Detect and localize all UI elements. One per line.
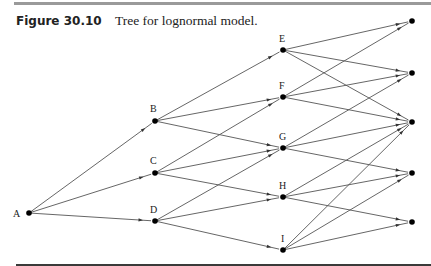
node-T1 (409, 18, 415, 24)
node-label-I: I (281, 233, 284, 244)
edge-A-C (29, 174, 151, 213)
node-H (280, 194, 286, 200)
edge-H-T4 (283, 174, 408, 197)
node-G (280, 145, 286, 151)
edge-E-T2 (283, 50, 408, 72)
node-label-H: H (279, 180, 286, 191)
node-label-G: G (279, 131, 286, 142)
arrowhead-icon (268, 103, 273, 107)
arrowhead-icon (268, 154, 273, 158)
edge-I-T5 (283, 223, 408, 250)
arrowhead-icon (397, 128, 402, 132)
node-E (280, 47, 286, 53)
tree-edges (29, 22, 409, 250)
edge-I-T3 (283, 125, 409, 250)
arrowhead-icon (397, 27, 402, 31)
edge-D-H (155, 198, 279, 221)
tree-nodes: ABCDEFGHI (13, 18, 415, 253)
node-F (280, 94, 286, 100)
arrowhead-icon (397, 113, 402, 117)
node-label-F: F (279, 80, 285, 91)
edge-D-I (155, 221, 279, 249)
arrowhead-icon (397, 79, 402, 83)
figure-page: Figure 30.10 Tree for lognormal model. A… (0, 0, 431, 266)
edge-E-T1 (283, 22, 408, 50)
node-T4 (409, 170, 415, 176)
edge-G-T4 (283, 148, 408, 172)
arrowhead-icon (139, 176, 144, 179)
edge-F-T2 (283, 74, 408, 97)
node-label-E: E (279, 33, 285, 44)
edge-A-B (29, 123, 152, 213)
node-C (152, 170, 158, 176)
edge-B-G (155, 121, 279, 147)
edge-A-D (29, 213, 151, 221)
arrowhead-icon (138, 218, 143, 221)
tree-diagram: ABCDEFGHI (0, 0, 431, 266)
node-T3 (409, 119, 415, 125)
node-label-D: D (150, 204, 157, 215)
edge-H-T5 (283, 197, 408, 221)
edge-B-F (155, 98, 279, 121)
arrowhead-icon (397, 179, 402, 183)
arrowhead-icon (268, 56, 273, 60)
node-label-B: B (150, 103, 157, 114)
node-B (152, 118, 158, 124)
edge-C-H (155, 173, 279, 196)
node-I (280, 247, 286, 253)
node-D (152, 218, 158, 224)
node-label-C: C (150, 155, 157, 166)
node-T2 (409, 70, 415, 76)
node-T5 (409, 219, 415, 225)
node-label-A: A (13, 208, 21, 219)
node-A (26, 210, 32, 216)
